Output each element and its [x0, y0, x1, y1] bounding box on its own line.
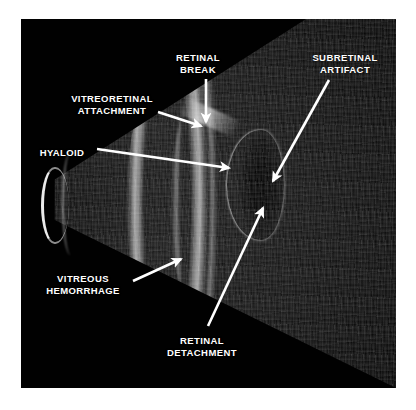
- vitreoretinal-attachment-spur: [177, 96, 239, 137]
- anterior-surface-arc: [62, 152, 79, 255]
- ultrasound-scan-frame: [21, 19, 396, 388]
- detached-retina-fold: [227, 130, 283, 241]
- figure-page: RETINAL BREAKSUBRETINAL ARTIFACTVITREORE…: [0, 0, 416, 410]
- retina-bright-band: [171, 19, 396, 388]
